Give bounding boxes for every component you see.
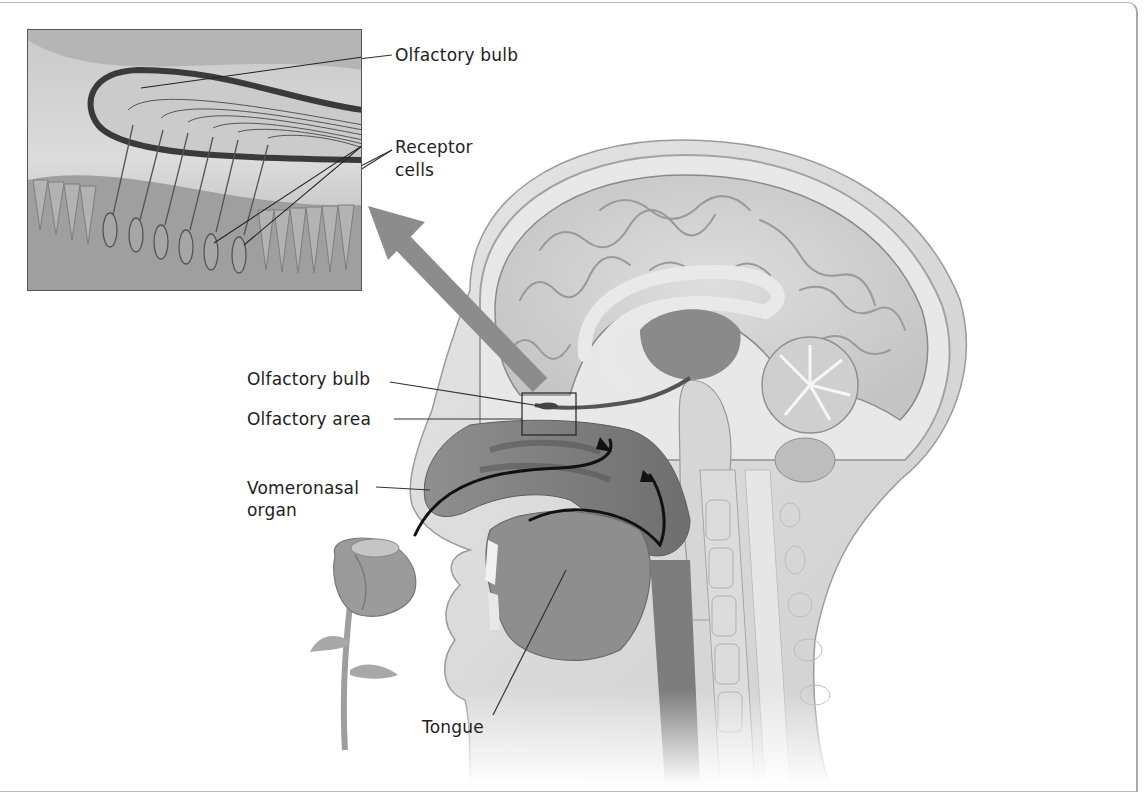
olfactory-bulb-shape — [538, 403, 558, 410]
label-tongue: Tongue — [422, 716, 484, 738]
label-receptor-cells-line2: cells — [395, 159, 434, 181]
label-vomeronasal-line1: Vomeronasal — [247, 477, 359, 499]
olfactory-epithelium-inset — [27, 29, 362, 291]
label-olfactory-area: Olfactory area — [247, 408, 371, 430]
label-receptor-cells-line1: Receptor — [395, 136, 473, 158]
label-inset-olfactory-bulb: Olfactory bulb — [395, 44, 518, 66]
label-olfactory-bulb: Olfactory bulb — [247, 368, 370, 390]
rose-illustration — [310, 538, 416, 750]
tongue-shape — [486, 511, 650, 660]
inset-illustration — [28, 30, 362, 291]
label-vomeronasal-line2: organ — [247, 499, 297, 521]
